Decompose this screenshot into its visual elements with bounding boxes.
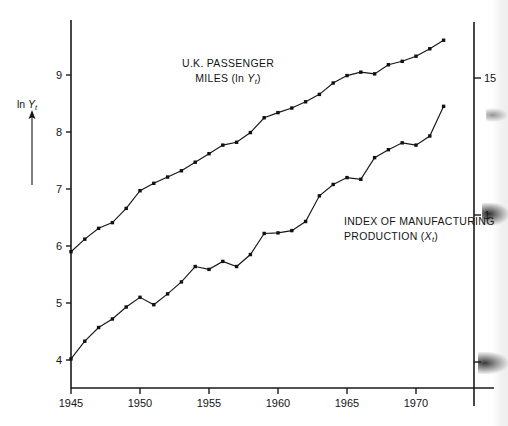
data-point-marker <box>263 232 266 235</box>
x-axis-tick-label: 1945 <box>59 397 83 409</box>
data-point-marker <box>111 221 114 224</box>
right-axis-tick-label: 15 <box>484 72 496 84</box>
data-point-marker <box>359 70 362 73</box>
data-point-marker <box>345 176 348 179</box>
y-axis-label: ln Yt <box>17 98 37 110</box>
data-point-marker <box>290 229 293 232</box>
data-point-marker <box>69 250 72 253</box>
data-point-marker <box>97 326 100 329</box>
annotation-upper-line2: MILES (ln Yt) <box>182 71 274 86</box>
data-point-marker <box>180 169 183 172</box>
data-point-marker <box>152 303 155 306</box>
data-point-marker <box>152 182 155 185</box>
x-axis-tick-label: 1965 <box>335 397 359 409</box>
data-point-marker <box>166 175 169 178</box>
data-point-marker <box>125 305 128 308</box>
data-point-marker <box>318 194 321 197</box>
data-point-marker <box>345 74 348 77</box>
data-point-marker <box>180 280 183 283</box>
y-axis-tick-label: 4 <box>56 354 62 366</box>
data-point-marker <box>304 100 307 103</box>
data-point-marker <box>428 134 431 137</box>
data-point-marker <box>318 93 321 96</box>
x-axis-tick-label: 1960 <box>266 397 290 409</box>
data-point-marker <box>235 141 238 144</box>
data-point-marker <box>235 265 238 268</box>
y-axis-tick-label: 6 <box>56 240 62 252</box>
data-point-marker <box>428 47 431 50</box>
chart-axes <box>71 20 494 406</box>
annotation-upper-var: Y <box>247 72 254 84</box>
data-point-marker <box>111 317 114 320</box>
data-point-marker <box>442 105 445 108</box>
y-axis-tick-label: 9 <box>56 69 62 81</box>
data-point-marker <box>194 265 197 268</box>
data-point-marker <box>401 60 404 63</box>
y-axis-label-prefix: ln <box>17 98 28 110</box>
data-point-marker <box>221 260 224 263</box>
data-point-marker <box>414 54 417 57</box>
y-axis-tick-label: 7 <box>56 183 62 195</box>
annotation-upper-suffix: ) <box>257 72 261 84</box>
annotation-lower-var: X <box>425 230 432 242</box>
data-point-marker <box>276 231 279 234</box>
data-point-marker <box>290 106 293 109</box>
data-point-marker <box>401 141 404 144</box>
data-point-marker <box>414 143 417 146</box>
annotation-lower-line2: PRODUCTION (Xt) <box>344 229 495 244</box>
data-point-marker <box>373 156 376 159</box>
data-point-marker <box>387 63 390 66</box>
data-point-marker <box>387 148 390 151</box>
data-point-marker <box>97 227 100 230</box>
data-point-marker <box>304 220 307 223</box>
annotation-upper-line1: U.K. PASSENGER <box>182 56 274 71</box>
data-point-marker <box>359 178 362 181</box>
axis-left-and-bottom <box>71 20 494 388</box>
x-axis-tick-label: 1955 <box>197 397 221 409</box>
annotation-lower-suffix: ) <box>434 230 438 242</box>
annotation-lower-sub: t <box>432 235 434 244</box>
data-point-marker <box>138 296 141 299</box>
annotation-lower-prefix: PRODUCTION ( <box>344 230 425 242</box>
chart-series <box>69 39 445 361</box>
x-axis-tick-label: 1970 <box>404 397 428 409</box>
data-point-marker <box>83 339 86 342</box>
annotation-upper-sub: t <box>255 77 257 86</box>
data-point-marker <box>249 131 252 134</box>
data-point-marker <box>207 268 210 271</box>
y-axis-tick-label: 5 <box>56 297 62 309</box>
data-point-marker <box>442 39 445 42</box>
data-point-marker <box>69 357 72 360</box>
data-point-marker <box>249 253 252 256</box>
annotation-upper-series: U.K. PASSENGER MILES (ln Yt) <box>182 56 274 86</box>
data-point-marker <box>332 81 335 84</box>
annotation-lower-series: INDEX OF MANUFACTURING PRODUCTION (Xt) <box>344 214 495 244</box>
y-axis-arrow <box>29 110 36 185</box>
data-point-marker <box>138 189 141 192</box>
data-point-marker <box>83 237 86 240</box>
data-point-marker <box>373 72 376 75</box>
y-axis-tick-label: 8 <box>56 126 62 138</box>
annotation-lower-line1: INDEX OF MANUFACTURING <box>344 214 495 229</box>
data-point-marker <box>194 161 197 164</box>
x-axis-tick-label: 1950 <box>128 397 152 409</box>
y-axis-label-sub: t <box>35 103 37 112</box>
data-point-marker <box>332 183 335 186</box>
data-point-marker <box>125 207 128 210</box>
data-point-marker <box>263 116 266 119</box>
data-point-marker <box>221 143 224 146</box>
annotation-upper-prefix: MILES (ln <box>195 72 247 84</box>
chart-figure: 987654194519501955196019651970151 ln Yt … <box>0 0 508 426</box>
data-point-marker <box>166 292 169 295</box>
data-point-marker <box>276 111 279 114</box>
data-point-marker <box>207 152 210 155</box>
